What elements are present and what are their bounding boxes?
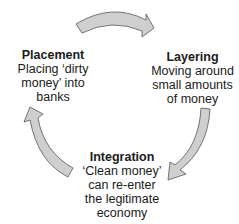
stage-text: can re-enter <box>78 178 166 192</box>
stage-title: Integration <box>78 150 166 164</box>
stage-layering: Layering Moving around small amounts of … <box>150 50 235 106</box>
stage-text: money’ into <box>8 76 98 90</box>
stage-text: banks <box>8 90 98 104</box>
stage-text: Moving around <box>150 64 235 78</box>
stage-text: the legitimate <box>78 192 166 206</box>
stage-text: Placing ‘dirty <box>8 62 98 76</box>
stage-integration: Integration ‘Clean money’ can re-enter t… <box>78 150 166 220</box>
stage-title: Placement <box>8 48 98 62</box>
stage-text: of money <box>150 92 235 106</box>
stage-placement: Placement Placing ‘dirty money’ into ban… <box>8 48 98 104</box>
arrow-placement-to-layering <box>76 12 154 37</box>
stage-text: ‘Clean money’ <box>78 164 166 178</box>
arrow-integration-to-placement <box>24 107 73 177</box>
arrow-layering-to-integration <box>168 108 210 180</box>
stage-text: economy <box>78 206 166 220</box>
stage-title: Layering <box>150 50 235 64</box>
stage-text: small amounts <box>150 78 235 92</box>
